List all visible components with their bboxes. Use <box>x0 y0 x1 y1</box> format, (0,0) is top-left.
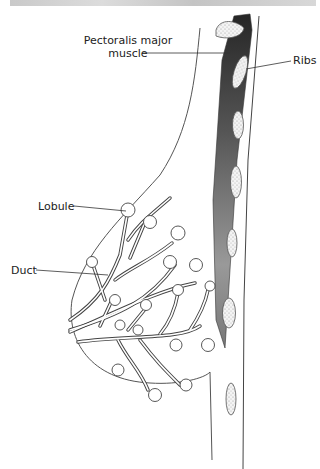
label-ribs: Ribs <box>293 54 316 67</box>
breast-anatomy-diagram <box>0 0 320 469</box>
label-lobule: Lobule <box>38 200 74 213</box>
leader-lines <box>36 53 291 275</box>
breast-outline <box>71 28 212 460</box>
label-pectoralis-major: Pectoralis major muscle <box>82 34 174 60</box>
label-pectoralis-line1: Pectoralis major <box>82 34 174 47</box>
label-pectoralis-line2: muscle <box>82 47 174 60</box>
label-duct: Duct <box>11 264 37 277</box>
